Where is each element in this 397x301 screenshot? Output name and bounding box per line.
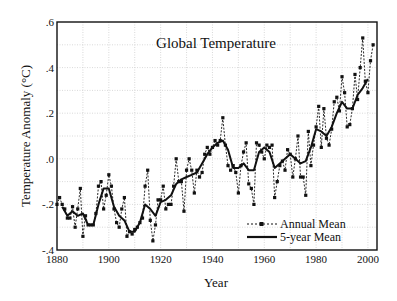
annual-mean-marker	[317, 105, 320, 108]
annual-mean-marker	[333, 100, 336, 103]
annual-mean-marker	[245, 141, 248, 144]
legend: Annual Mean 5-year Mean	[247, 217, 346, 244]
x-tick-label: 1980	[305, 253, 328, 265]
y-tick-label: .2	[46, 107, 54, 119]
y-tick-label: .0	[46, 153, 55, 165]
annual-mean-marker	[151, 239, 154, 242]
annual-mean-marker	[107, 173, 110, 176]
annual-mean-marker	[185, 169, 188, 172]
annual-mean-marker	[361, 36, 364, 39]
grid-lines	[57, 22, 377, 250]
annual-mean-marker	[372, 43, 375, 46]
x-tick-label: 2000	[357, 253, 380, 265]
annual-mean-marker	[201, 171, 204, 174]
annual-mean-marker	[68, 216, 71, 219]
annual-mean-marker	[190, 169, 193, 172]
annual-mean-marker	[270, 144, 273, 147]
annual-mean-marker	[237, 191, 240, 194]
annual-mean-marker	[149, 219, 152, 222]
y-tick-label: -.2	[42, 198, 54, 210]
annual-mean-marker	[226, 164, 229, 167]
x-axis-ticks: 1880190019201940196019802000	[46, 253, 379, 265]
annual-mean-marker	[273, 196, 276, 199]
annual-mean-marker	[234, 171, 237, 174]
annual-mean-marker	[221, 116, 224, 119]
annual-mean-marker	[105, 194, 108, 197]
x-axis-label: Year	[204, 275, 229, 290]
annual-mean-marker	[258, 144, 261, 147]
annual-mean-marker	[322, 107, 325, 110]
annual-mean-marker	[188, 157, 191, 160]
five-year-mean-series	[62, 79, 368, 232]
annual-mean-marker	[143, 185, 146, 188]
annual-mean-marker	[327, 144, 330, 147]
annual-mean-marker	[276, 180, 279, 183]
annual-mean-marker	[343, 91, 346, 94]
x-tick-label: 1920	[150, 253, 173, 265]
annual-mean-marker	[302, 175, 305, 178]
annual-mean-marker	[102, 207, 105, 210]
annual-mean-marker	[263, 157, 266, 160]
annual-mean-marker	[340, 75, 343, 78]
annual-mean-marker	[76, 207, 79, 210]
annual-mean-marker	[353, 73, 356, 76]
annual-mean-marker	[164, 207, 167, 210]
legend-annual-marker-icon	[260, 222, 264, 226]
legend-five-year-label: 5-year Mean	[280, 230, 341, 244]
chart-title: Global Temperature	[156, 35, 276, 51]
annual-mean-marker	[169, 203, 172, 206]
annual-mean-marker	[291, 175, 294, 178]
annual-mean-marker	[120, 207, 123, 210]
annual-mean-marker	[252, 203, 255, 206]
annual-mean-marker	[123, 196, 126, 199]
legend-annual-label: Annual Mean	[280, 217, 346, 231]
annual-mean-marker	[229, 169, 232, 172]
x-tick-label: 1940	[201, 253, 224, 265]
annual-mean-marker	[213, 139, 216, 142]
temperature-chart: -.4-.2.0.2.4.6 1880190019201940196019802…	[0, 0, 397, 301]
annual-mean-marker	[79, 187, 82, 190]
y-tick-label: .4	[46, 62, 55, 74]
annual-mean-marker	[99, 180, 102, 183]
annual-mean-marker	[286, 148, 289, 151]
annual-mean-marker	[58, 196, 61, 199]
annual-mean-marker	[74, 226, 77, 229]
annual-mean-marker	[206, 146, 209, 149]
annual-mean-marker	[250, 187, 253, 190]
annual-mean-marker	[146, 169, 149, 172]
annual-mean-marker	[182, 210, 185, 213]
y-tick-label: .6	[46, 16, 55, 28]
y-axis-label: Temperature Anomaly (°C)	[18, 65, 33, 207]
annual-mean-marker	[115, 221, 118, 224]
annual-mean-marker	[247, 182, 250, 185]
annual-mean-marker	[320, 146, 323, 149]
annual-mean-marker	[71, 205, 74, 208]
annual-mean-marker	[304, 194, 307, 197]
annual-mean-marker	[348, 123, 351, 126]
annual-mean-marker	[242, 150, 245, 153]
annual-mean-marker	[307, 130, 310, 133]
annual-mean-marker	[283, 169, 286, 172]
annual-mean-marker	[97, 185, 100, 188]
x-tick-label: 1900	[98, 253, 121, 265]
annual-mean-marker	[325, 137, 328, 140]
annual-mean-marker	[154, 223, 157, 226]
annual-mean-marker	[198, 175, 201, 178]
annual-mean-marker	[175, 157, 178, 160]
annual-mean-marker	[118, 226, 121, 229]
annual-mean-marker	[162, 185, 165, 188]
annual-mean-marker	[369, 59, 372, 62]
five-year-mean-line	[62, 79, 368, 232]
annual-mean-marker	[309, 164, 312, 167]
annual-mean-marker	[110, 185, 113, 188]
annual-mean-marker	[131, 232, 134, 235]
annual-mean-marker	[366, 91, 369, 94]
annual-mean-marker	[359, 66, 362, 69]
annual-mean-marker	[193, 191, 196, 194]
x-tick-label: 1960	[253, 253, 276, 265]
annual-mean-marker	[315, 125, 318, 128]
y-axis-ticks: -.4-.2.0.2.4.6	[42, 16, 54, 256]
annual-mean-marker	[296, 134, 299, 137]
annual-mean-marker	[81, 235, 84, 238]
x-tick-label: 1880	[46, 253, 69, 265]
